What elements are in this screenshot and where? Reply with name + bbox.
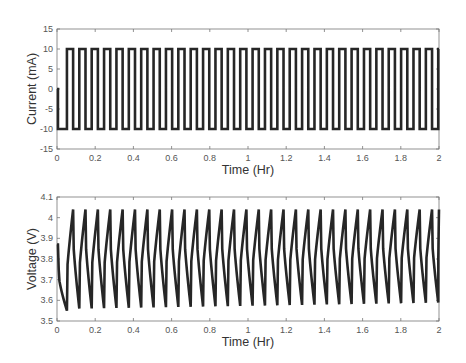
voltage-y-tick-label: 3.5 — [40, 316, 53, 326]
current-x-tick-label: 0 — [54, 153, 59, 163]
current-x-tick-label: 0.2 — [89, 153, 102, 163]
current-trace-line — [57, 49, 439, 129]
voltage-x-tick-label: 1.2 — [280, 325, 293, 335]
current-y-tick-label: 10 — [43, 44, 53, 54]
current-x-tick-label: 1.2 — [280, 153, 293, 163]
current-x-tick-label: 1.8 — [395, 153, 408, 163]
current-y-tick-label: 15 — [43, 24, 53, 34]
current-x-tick-label: 0.6 — [165, 153, 178, 163]
voltage-y-axis-label: Voltage (V) — [25, 228, 39, 290]
voltage-x-tick-label: 1.4 — [318, 325, 331, 335]
voltage-x-tick-label: 1.6 — [356, 325, 369, 335]
current-x-tick-label: 1.6 — [356, 153, 369, 163]
voltage-y-tick-label: 3.8 — [40, 254, 53, 264]
voltage-x-tick-label: 0 — [54, 325, 59, 335]
voltage-x-tick-label: 0.4 — [127, 325, 140, 335]
current-x-tick-label: 1 — [245, 153, 250, 163]
current-x-axis-label: Time (Hr) — [222, 163, 274, 177]
current-y-tick-label: -15 — [40, 144, 53, 154]
voltage-x-tick-label: 1 — [245, 325, 250, 335]
current-panel: 00.20.40.60.811.21.41.61.82 -15-10-50510… — [25, 24, 442, 177]
voltage-x-tick-label: 0.8 — [204, 325, 217, 335]
current-y-tick-label: 5 — [48, 64, 53, 74]
current-x-tick-label: 0.8 — [204, 153, 217, 163]
current-x-tick-label: 2 — [436, 153, 441, 163]
voltage-x-axis-label: Time (Hr) — [222, 335, 274, 349]
current-x-tick-label: 0.4 — [127, 153, 140, 163]
voltage-y-tick-label: 4.1 — [40, 192, 53, 202]
voltage-y-tick-label: 3.7 — [40, 275, 53, 285]
voltage-y-tick-label: 4 — [48, 213, 53, 223]
current-y-axis-label: Current (mA) — [25, 53, 39, 125]
voltage-x-tick-label: 2 — [436, 325, 441, 335]
voltage-x-tick-label: 1.8 — [395, 325, 408, 335]
current-y-tick-label: -10 — [40, 124, 53, 134]
voltage-y-tick-label: 3.6 — [40, 295, 53, 305]
current-y-tick-label: 0 — [48, 84, 53, 94]
current-y-tick-label: -5 — [45, 104, 53, 114]
chart-canvas: 00.20.40.60.811.21.41.61.82 -15-10-50510… — [0, 0, 466, 363]
voltage-panel: 00.20.40.60.811.21.41.61.82 3.53.63.73.8… — [25, 192, 442, 349]
voltage-y-tick-label: 3.9 — [40, 233, 53, 243]
voltage-x-tick-label: 0.6 — [165, 325, 178, 335]
current-x-tick-label: 1.4 — [318, 153, 331, 163]
voltage-x-tick-label: 0.2 — [89, 325, 102, 335]
voltage-trace-line — [57, 209, 439, 310]
